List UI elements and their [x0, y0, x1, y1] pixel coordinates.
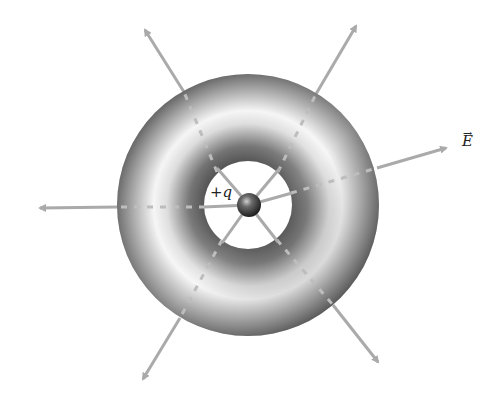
field-line-left	[40, 207, 118, 208]
charge-sign: +	[210, 183, 223, 201]
field-line-upper-left	[145, 30, 184, 92]
electric-field-label: →E	[462, 132, 473, 150]
field-line-lower-right	[333, 305, 378, 362]
charge-symbol: q	[223, 183, 233, 201]
vector-arrow-icon: →	[463, 127, 472, 140]
field-line-right	[377, 148, 446, 168]
charge-label: +q	[210, 183, 232, 201]
point-charge-sphere	[237, 193, 261, 217]
field-line-lower-left	[143, 318, 180, 379]
field-line-upper-right	[316, 26, 356, 94]
diagram-canvas	[0, 0, 502, 403]
